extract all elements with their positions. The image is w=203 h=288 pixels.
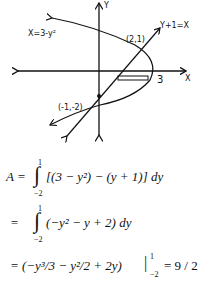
equation-line-3: = (−y³/3 − y²/2 + 2y) | 1 −2 = 9 / 2 <box>0 252 203 282</box>
parabola-label: X=3-y² <box>28 29 56 38</box>
point-upper-label: (2,1) <box>126 35 145 44</box>
eq3-antiderivative: (−y³/3 − y²/2 + 2y) <box>22 258 122 274</box>
eq1-prefix: A = <box>6 169 26 185</box>
line-label: Y+1=X <box>159 21 189 30</box>
evaluation-bar: | <box>144 254 147 272</box>
eq3-prefix: = <box>10 258 19 274</box>
area-strip <box>118 76 148 80</box>
eq3-upper-limit: 1 <box>150 252 154 261</box>
point-lower-label: (-1,-2) <box>58 103 83 112</box>
x-intercept-label: 3 <box>157 74 163 85</box>
eq1-integrand: [(3 − y²) − (y + 1)] dy <box>46 169 163 185</box>
integral-sign: ∫ <box>34 210 40 232</box>
x-axis-label: X <box>185 74 191 83</box>
eq2-integrand: (−y² − y + 2) dy <box>46 215 131 231</box>
equation-line-2: = 1 ∫ −2 (−y² − y + 2) dy <box>0 204 203 244</box>
eq2-prefix: = <box>10 215 19 231</box>
y-axis-label: Y <box>103 1 109 10</box>
line-y-plus-1-equals-x <box>67 28 160 136</box>
region-graph: Y X X=3-y² Y+1=X (2,1) (-1,-2) 3 <box>0 0 203 150</box>
eq3-lower-limit: −2 <box>150 270 159 279</box>
eq1-lower-limit: −2 <box>34 189 43 198</box>
integral-sign: ∫ <box>34 164 40 186</box>
eq2-lower-limit: −2 <box>34 235 43 244</box>
equation-line-1: A = 1 ∫ −2 [(3 − y²) − (y + 1)] dy <box>0 158 203 198</box>
y-intercept-dot <box>97 94 101 98</box>
eq3-result: = 9 / 2 <box>164 258 198 274</box>
